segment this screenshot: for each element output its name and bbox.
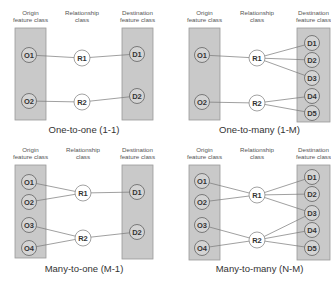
origin-node-label: O1: [197, 177, 207, 186]
origin-column-header: Origin: [22, 9, 39, 16]
relationship-column-header: class: [75, 16, 89, 23]
origin-column-header: feature class: [13, 153, 48, 160]
relationship-column-header: class: [250, 153, 264, 160]
relationship-column-header: Relationship: [65, 9, 100, 16]
destination-node-d2: D2: [130, 225, 145, 240]
destination-node-label: D4: [307, 226, 317, 235]
destination-column-header: Destination: [122, 9, 154, 16]
origin-node-o1: O1: [195, 48, 210, 63]
origin-column-header: feature class: [187, 153, 222, 160]
destination-column-header: Destination: [298, 146, 330, 153]
relationship-node-label: R1: [252, 54, 262, 63]
relationship-node-label: R2: [77, 98, 87, 107]
origin-node-label: O2: [24, 198, 34, 207]
relationship-node-label: R2: [252, 236, 262, 245]
relationship-cardinality-diagram: Originfeature classRelationshipclassDest…: [0, 0, 331, 282]
destination-node-d5: D5: [305, 106, 320, 121]
destination-node-d3: D3: [305, 71, 320, 86]
destination-node-d4: D4: [305, 89, 320, 104]
origin-node-o1: O1: [22, 48, 37, 63]
destination-node-label: D2: [132, 92, 142, 101]
relationship-column-header: Relationship: [66, 146, 101, 153]
destination-column-header: Destination: [298, 9, 330, 16]
panel-title: Many-to-many (N-M): [216, 263, 304, 274]
relationship-column-header: class: [250, 16, 264, 23]
origin-node-label: O4: [24, 244, 35, 253]
origin-node-label: O2: [197, 198, 207, 207]
destination-node-label: D4: [307, 92, 317, 101]
origin-node-o1: O1: [22, 175, 37, 190]
panel-many-to-many: Originfeature classRelationshipclassDest…: [187, 146, 331, 274]
destination-node-label: D1: [132, 188, 142, 197]
destination-column-header: feature class: [296, 16, 331, 23]
origin-column-header: feature class: [187, 16, 222, 23]
destination-node-d1: D1: [130, 185, 145, 200]
destination-node-d2: D2: [305, 53, 320, 68]
relationship-node-r2: R2: [75, 230, 91, 246]
origin-node-o2: O2: [195, 95, 210, 110]
origin-node-label: O4: [197, 244, 208, 253]
relationship-node-r2: R2: [74, 94, 90, 110]
origin-node-label: O1: [24, 51, 34, 60]
destination-node-label: D1: [132, 50, 142, 59]
destination-node-d1: D1: [305, 170, 320, 185]
destination-feature-class-box: [122, 28, 153, 120]
panel-title: One-to-many (1-M): [219, 124, 300, 135]
origin-node-o1: O1: [195, 174, 210, 189]
destination-node-label: D3: [307, 209, 317, 218]
panel-one-to-many: Originfeature classRelationshipclassDest…: [187, 9, 331, 135]
origin-column-header: Origin: [196, 146, 213, 153]
origin-node-o2: O2: [22, 195, 37, 210]
destination-node-label: D3: [307, 74, 317, 83]
relationship-column-header: Relationship: [240, 146, 275, 153]
destination-node-label: D2: [307, 56, 317, 65]
relationship-node-r1: R1: [249, 187, 265, 203]
destination-node-label: D2: [132, 228, 142, 237]
origin-node-label: O2: [24, 97, 34, 106]
origin-node-label: O3: [197, 221, 207, 230]
panel-title: Many-to-one (M-1): [45, 263, 124, 274]
origin-node-label: O2: [197, 98, 207, 107]
destination-node-label: D2: [307, 190, 317, 199]
destination-node-d3: D3: [305, 206, 320, 221]
panel-one-to-one: Originfeature classRelationshipclassDest…: [13, 9, 155, 135]
origin-node-label: O1: [197, 51, 207, 60]
relationship-node-r1: R1: [74, 50, 90, 66]
panel-title: One-to-one (1-1): [49, 124, 120, 135]
destination-node-d1: D1: [130, 47, 145, 62]
destination-node-label: D5: [307, 109, 317, 118]
destination-feature-class-box: [122, 165, 153, 259]
destination-node-d2: D2: [305, 187, 320, 202]
relationship-node-label: R1: [78, 189, 88, 198]
destination-column-header: feature class: [120, 16, 155, 23]
relationship-node-r1: R1: [249, 50, 265, 66]
relationship-node-label: R2: [252, 99, 262, 108]
destination-column-header: feature class: [120, 153, 155, 160]
destination-node-d4: D4: [305, 223, 320, 238]
origin-node-label: O1: [24, 178, 34, 187]
relationship-column-header: class: [76, 153, 90, 160]
destination-column-header: feature class: [296, 153, 331, 160]
origin-node-o3: O3: [195, 218, 210, 233]
destination-column-header: Destination: [122, 146, 154, 153]
panel-many-to-one: Originfeature classRelationshipclassDest…: [13, 146, 155, 274]
relationship-node-r2: R2: [249, 232, 265, 248]
origin-node-label: O3: [24, 221, 34, 230]
origin-node-o2: O2: [22, 94, 37, 109]
origin-node-o4: O4: [195, 241, 210, 256]
destination-node-label: D1: [307, 39, 317, 48]
origin-column-header: Origin: [196, 9, 213, 16]
relationship-node-r2: R2: [249, 95, 265, 111]
relationship-column-header: Relationship: [240, 9, 275, 16]
origin-node-o4: O4: [22, 241, 37, 256]
origin-node-o3: O3: [22, 218, 37, 233]
origin-column-header: feature class: [13, 16, 48, 23]
destination-node-label: D1: [307, 173, 317, 182]
destination-node-label: D5: [307, 244, 317, 253]
relationship-node-label: R1: [77, 54, 87, 63]
destination-node-d1: D1: [305, 36, 320, 51]
relationship-node-label: R1: [252, 191, 262, 200]
destination-node-d2: D2: [130, 89, 145, 104]
origin-column-header: Origin: [22, 146, 39, 153]
destination-node-d5: D5: [305, 241, 320, 256]
